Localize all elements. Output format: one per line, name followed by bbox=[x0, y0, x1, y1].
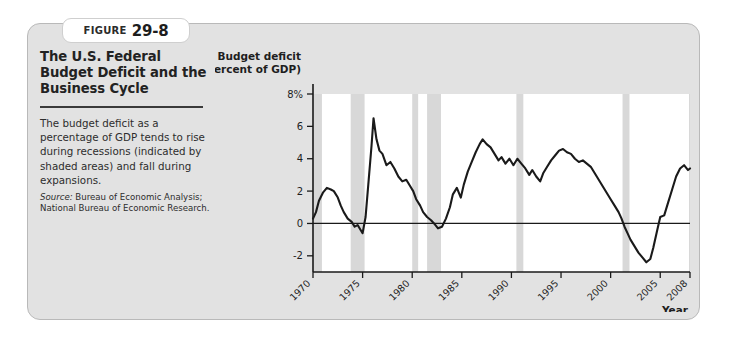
chart: -202468%19701975198019851990199520002005… bbox=[215, 40, 693, 312]
x-tick-label-2005: 2005 bbox=[635, 278, 660, 303]
chart-svg: -202468%19701975198019851990199520002005… bbox=[215, 40, 693, 312]
title-divider bbox=[40, 106, 203, 108]
y-tick-label-2: 2 bbox=[297, 186, 303, 197]
y-tick-label-8: 8% bbox=[287, 89, 303, 100]
figure-caption: The budget deficit as a percentage of GD… bbox=[40, 116, 212, 187]
x-tick-label-1980: 1980 bbox=[387, 278, 412, 303]
y-tick-label--2: -2 bbox=[293, 250, 303, 261]
y-axis-title-line1: Budget deficit bbox=[217, 50, 301, 62]
x-tick-label-2008: 2008 bbox=[664, 278, 689, 303]
recession-band-0 bbox=[313, 94, 322, 272]
y-tick-label-4: 4 bbox=[297, 153, 303, 164]
recession-band-5 bbox=[623, 94, 630, 272]
y-tick-label-6: 6 bbox=[297, 121, 303, 132]
figure-title: The U.S. Federal Budget Deficit and the … bbox=[40, 49, 212, 97]
y-axis-title-line2: (percent of GDP) bbox=[215, 63, 301, 75]
figure-badge: FIGURE 29-8 bbox=[62, 18, 190, 43]
figure-badge-word: FIGURE bbox=[84, 25, 127, 36]
x-tick-label-1975: 1975 bbox=[337, 278, 362, 303]
recession-band-4 bbox=[516, 94, 523, 272]
x-tick-label-2000: 2000 bbox=[585, 278, 610, 303]
recession-band-1 bbox=[351, 94, 365, 272]
x-tick-label-1970: 1970 bbox=[287, 278, 312, 303]
source-word: Source: bbox=[40, 192, 73, 202]
figure-page: FIGURE 29-8 The U.S. Federal Budget Defi… bbox=[0, 0, 729, 340]
recession-band-3 bbox=[427, 94, 441, 272]
recession-band-2 bbox=[412, 94, 418, 272]
y-tick-label-0: 0 bbox=[297, 218, 303, 229]
figure-text-column: The U.S. Federal Budget Deficit and the … bbox=[40, 49, 212, 213]
figure-source: Source: Bureau of Economic Analysis; Nat… bbox=[40, 192, 212, 213]
x-tick-label-1985: 1985 bbox=[436, 278, 461, 303]
x-tick-label-1990: 1990 bbox=[486, 278, 511, 303]
figure-badge-number: 29-8 bbox=[132, 22, 169, 40]
x-axis-title: Year bbox=[661, 304, 689, 312]
recession-band-6 bbox=[689, 94, 690, 272]
x-tick-label-1995: 1995 bbox=[535, 278, 560, 303]
